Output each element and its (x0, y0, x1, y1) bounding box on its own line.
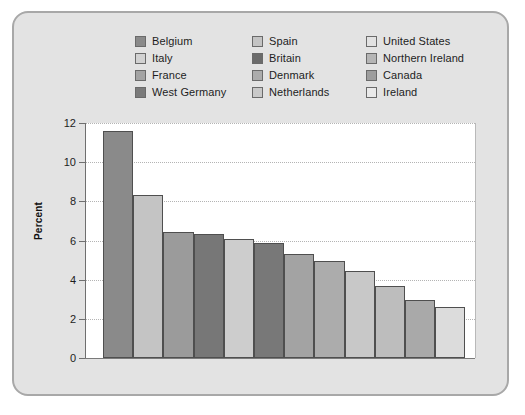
bar[interactable] (194, 234, 224, 358)
legend-item[interactable]: Belgium (135, 33, 255, 50)
legend-item-label: United States (383, 33, 450, 50)
bar[interactable] (375, 286, 405, 358)
y-axis-tick-label: 0 (70, 352, 76, 364)
legend-item-label: Spain (269, 33, 298, 50)
bar[interactable] (103, 131, 133, 358)
legend-item-label: France (152, 67, 187, 84)
bar[interactable] (133, 195, 163, 358)
bar[interactable] (284, 254, 314, 358)
legend-item[interactable]: United States (366, 33, 486, 50)
legend-item[interactable]: Denmark (252, 67, 372, 84)
legend-item-label: Denmark (269, 67, 314, 84)
y-axis-tick-label: 12 (64, 117, 76, 129)
legend-swatch-icon (135, 87, 146, 98)
legend-swatch-icon (366, 70, 377, 81)
y-axis-tick-label: 8 (70, 195, 76, 207)
legend-item-label: Ireland (383, 84, 417, 101)
legend-item[interactable]: West Germany (135, 84, 255, 101)
legend-item-label: West Germany (152, 84, 226, 101)
chart-figure: Belgium Italy France West Germany Spain (0, 0, 525, 415)
gridline (86, 162, 475, 163)
bar[interactable] (224, 239, 254, 358)
legend-swatch-icon (252, 70, 263, 81)
gridline (86, 123, 475, 124)
plot-area (85, 123, 476, 358)
bar[interactable] (254, 243, 284, 358)
y-axis-tick-label: 2 (70, 313, 76, 325)
legend-item[interactable]: Canada (366, 67, 486, 84)
bar[interactable] (405, 300, 435, 358)
legend-swatch-icon (366, 53, 377, 64)
legend-item[interactable]: Italy (135, 50, 255, 67)
chart-legend: Belgium Italy France West Germany Spain (135, 33, 495, 105)
legend-column-2: Spain Britain Denmark Netherlands (252, 33, 372, 101)
y-axis-tick-label: 4 (70, 274, 76, 286)
legend-item[interactable]: Northern Ireland (366, 50, 486, 67)
y-axis-tick-label: 6 (70, 235, 76, 247)
legend-item-label: Britain (269, 50, 301, 67)
legend-item-label: Belgium (152, 33, 192, 50)
legend-item[interactable]: Netherlands (252, 84, 372, 101)
x-axis-line (85, 358, 475, 359)
y-axis-line (85, 123, 86, 359)
legend-item[interactable]: Ireland (366, 84, 486, 101)
legend-item[interactable]: Spain (252, 33, 372, 50)
legend-item-label: Canada (383, 67, 422, 84)
legend-item[interactable]: Britain (252, 50, 372, 67)
legend-column-1: Belgium Italy France West Germany (135, 33, 255, 101)
legend-swatch-icon (135, 70, 146, 81)
y-axis-ticks: 024681012 (0, 123, 85, 359)
legend-swatch-icon (252, 53, 263, 64)
legend-swatch-icon (252, 36, 263, 47)
legend-item[interactable]: France (135, 67, 255, 84)
legend-swatch-icon (252, 87, 263, 98)
legend-item-label: Netherlands (269, 84, 329, 101)
y-axis-tick-label: 10 (64, 156, 76, 168)
bar[interactable] (163, 232, 193, 358)
legend-swatch-icon (366, 87, 377, 98)
legend-swatch-icon (135, 36, 146, 47)
bar[interactable] (314, 261, 344, 358)
legend-column-3: United States Northern Ireland Canada Ir… (366, 33, 486, 101)
bar[interactable] (345, 271, 375, 358)
legend-item-label: Northern Ireland (383, 50, 464, 67)
legend-swatch-icon (135, 53, 146, 64)
bar[interactable] (435, 307, 465, 358)
legend-item-label: Italy (152, 50, 173, 67)
legend-swatch-icon (366, 36, 377, 47)
